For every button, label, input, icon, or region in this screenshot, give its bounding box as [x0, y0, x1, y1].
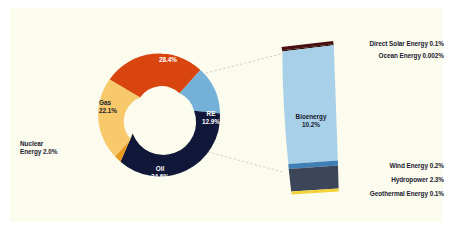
slice-label-oil-name: Oil	[140, 165, 180, 173]
slice-label-gas: Gas 22.1%	[99, 99, 139, 116]
fan-segment-bioenergy[interactable]	[282, 45, 338, 164]
slice-label-coal-name: Coal	[148, 48, 188, 56]
slice-label-coal: Coal 28.4%	[148, 48, 188, 65]
fan-label-direct-solar: Direct Solar Energy 0.1%	[338, 40, 444, 48]
slice-label-re: RE 12.9%	[194, 110, 228, 127]
slice-label-nuclear-line1: Nuclear	[20, 140, 90, 148]
slice-label-gas-name: Gas	[99, 99, 139, 107]
slice-label-coal-value: 28.4%	[148, 56, 188, 64]
slice-label-nuclear-line2: Energy 2.0%	[20, 148, 90, 156]
fan-label-hydropower: Hydropower 2.3%	[338, 176, 444, 184]
slice-label-oil: Oil 34.6%	[140, 165, 180, 182]
slice-label-gas-value: 22.1%	[99, 107, 139, 115]
fan-label-geothermal: Geothermal Energy 0.1%	[330, 190, 444, 198]
slice-label-re-name: RE	[194, 110, 228, 118]
fan-label-ocean: Ocean Energy 0.002%	[338, 52, 444, 60]
leader-line-top	[206, 53, 285, 73]
slice-label-nuclear: Nuclear Energy 2.0%	[20, 140, 90, 157]
slice-label-oil-value: 34.6%	[140, 173, 180, 181]
fan-label-wind: Wind Energy 0.2%	[338, 162, 444, 170]
fan-segment-hydropower[interactable]	[289, 166, 339, 192]
fan-label-bioenergy-name: Bioenergy	[288, 113, 334, 121]
chart-root: Coal 28.4% Gas 22.1% Oil 34.6% RE 12.9% …	[0, 0, 453, 230]
slice-label-re-value: 12.9%	[194, 118, 228, 126]
fan-label-bioenergy: Bioenergy 10.2%	[288, 113, 334, 130]
leader-line-bottom	[208, 152, 283, 172]
fan-label-bioenergy-value: 10.2%	[288, 121, 334, 129]
